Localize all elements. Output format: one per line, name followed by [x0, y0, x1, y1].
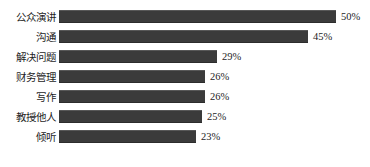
bar-fill [59, 10, 336, 23]
bar-fill [59, 30, 308, 43]
bar-fill [59, 90, 205, 103]
bar-fill [59, 130, 196, 143]
bar-track: 50% [59, 10, 360, 23]
bar-value-label: 26% [210, 70, 229, 83]
bar-fill [59, 70, 205, 83]
bar-track: 23% [59, 130, 220, 143]
bar-row: 沟通45% [0, 27, 370, 47]
bar-track: 25% [59, 110, 226, 123]
category-label: 教授他人 [0, 111, 56, 124]
bar-value-label: 26% [210, 90, 229, 103]
bar-row: 财务管理26% [0, 67, 370, 87]
category-label: 财务管理 [0, 71, 56, 84]
bar-track: 45% [59, 30, 332, 43]
category-label: 倾听 [0, 131, 56, 144]
category-label: 解决问题 [0, 51, 56, 64]
bar-value-label: 45% [313, 30, 332, 43]
bar-row: 公众演讲50% [0, 7, 370, 27]
bar-track: 26% [59, 90, 229, 103]
bar-track: 26% [59, 70, 229, 83]
category-label: 公众演讲 [0, 11, 56, 24]
bar-row: 解决问题29% [0, 47, 370, 67]
category-label: 沟通 [0, 31, 56, 44]
bar-row: 写作26% [0, 87, 370, 107]
bar-value-label: 25% [207, 110, 226, 123]
category-label: 写作 [0, 91, 56, 104]
bar-fill [59, 50, 217, 63]
bar-fill [59, 110, 202, 123]
bar-row: 教授他人25% [0, 107, 370, 127]
bar-track: 29% [59, 50, 241, 63]
bar-chart: 公众演讲50%沟通45%解决问题29%财务管理26%写作26%教授他人25%倾听… [0, 0, 370, 167]
bar-value-label: 23% [201, 130, 220, 143]
bar-value-label: 50% [341, 10, 360, 23]
bar-row: 倾听23% [0, 127, 370, 147]
bar-value-label: 29% [222, 50, 241, 63]
